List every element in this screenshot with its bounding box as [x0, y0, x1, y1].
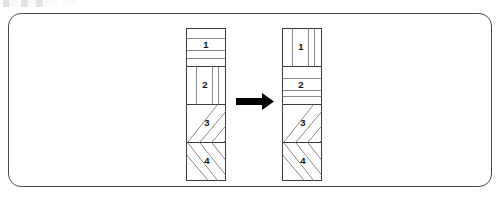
bar-after-section-2-label: 2 [298, 79, 303, 90]
bar-before-section-2: 2 [187, 67, 226, 105]
bar-before-section-2-label: 2 [202, 79, 207, 90]
right-arrow-icon [236, 93, 274, 110]
bar-before-section-4-label: 4 [204, 155, 210, 166]
bar-before-section-1-label: 1 [203, 39, 209, 50]
bar-after: 1 2 3 [276, 29, 352, 203]
transformation-diagram: 1 2 3 [0, 0, 501, 202]
bar-after-section-1-label: 1 [298, 41, 304, 52]
bar-after-section-4: 4 [276, 133, 348, 202]
bar-before-section-1: 1 [187, 29, 226, 67]
bar-before-section-4: 4 [180, 133, 252, 202]
bar-after-section-4-label: 4 [300, 155, 306, 166]
bar-after-section-3-label: 3 [300, 117, 305, 128]
bar-after-section-2: 2 [283, 67, 322, 105]
bar-before: 1 2 3 [180, 29, 256, 203]
bar-before-section-3-label: 3 [204, 117, 209, 128]
bar-after-section-1: 1 [283, 29, 322, 67]
